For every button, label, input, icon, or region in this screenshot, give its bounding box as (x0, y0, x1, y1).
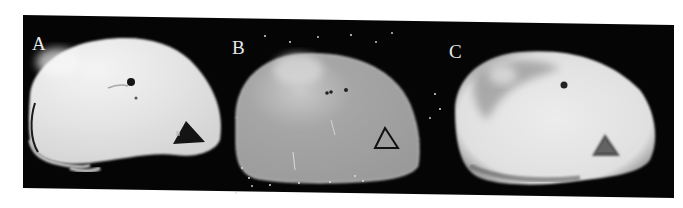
panel-label-b: B (232, 38, 245, 57)
panel-label-c: C (449, 42, 462, 61)
mri-figure-canvas (0, 0, 683, 208)
panel-label-a: A (32, 34, 46, 53)
